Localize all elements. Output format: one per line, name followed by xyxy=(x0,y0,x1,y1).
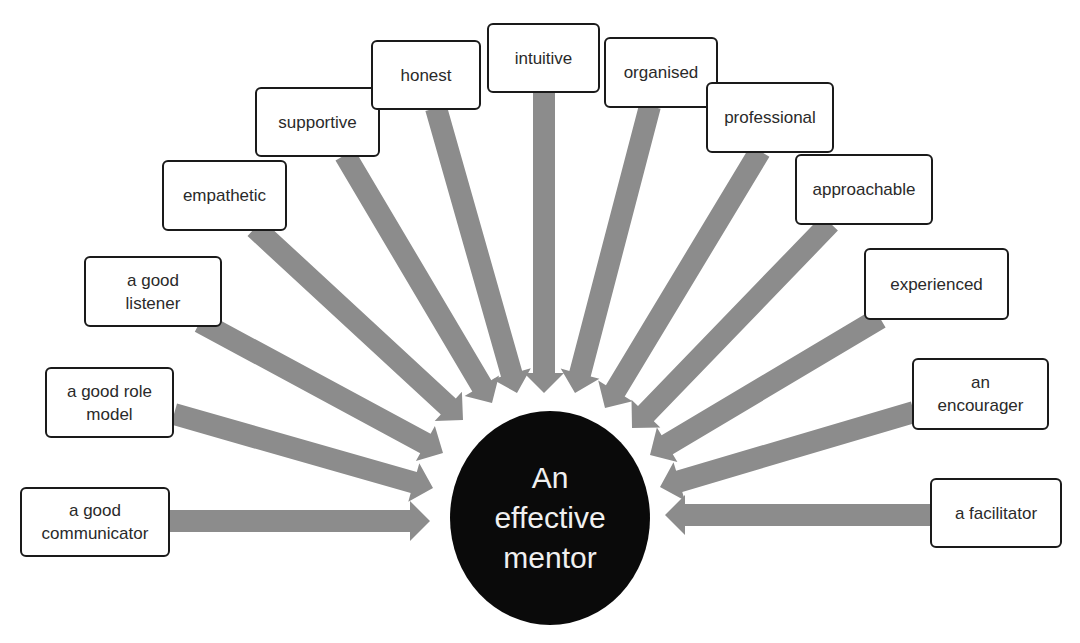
quality-label: experienced xyxy=(890,273,983,296)
quality-label: professional xyxy=(724,106,816,129)
quality-label: intuitive xyxy=(515,47,573,70)
arrow-6 xyxy=(524,93,564,393)
quality-box: intuitive xyxy=(487,23,600,93)
mentor-diagram: a good communicatora good role modela go… xyxy=(0,0,1080,643)
quality-box: a good listener xyxy=(84,256,222,327)
quality-box: experienced xyxy=(864,248,1009,320)
quality-label: a good role model xyxy=(67,380,152,426)
quality-label: approachable xyxy=(812,178,915,201)
arrow-12 xyxy=(665,495,932,535)
quality-box: a good communicator xyxy=(20,487,170,557)
quality-box: a good role model xyxy=(45,367,174,438)
quality-label: an encourager xyxy=(937,371,1023,417)
quality-label: honest xyxy=(400,64,451,87)
quality-box: a facilitator xyxy=(930,478,1062,548)
quality-box: supportive xyxy=(255,87,380,157)
quality-label: supportive xyxy=(278,111,356,134)
arrow-5 xyxy=(425,105,530,393)
quality-box: an encourager xyxy=(912,358,1049,430)
quality-label: a good listener xyxy=(126,269,181,315)
center-circle: An effective mentor xyxy=(450,411,650,625)
arrow-0 xyxy=(170,501,430,541)
quality-box: empathetic xyxy=(162,160,287,231)
quality-label: a facilitator xyxy=(955,502,1037,525)
quality-box: organised xyxy=(604,37,718,108)
quality-label: empathetic xyxy=(183,184,266,207)
quality-box: honest xyxy=(371,40,481,110)
quality-label: a good communicator xyxy=(42,499,149,545)
center-label: An effective mentor xyxy=(494,458,605,578)
quality-box: approachable xyxy=(795,154,933,225)
quality-label: organised xyxy=(624,61,699,84)
quality-box: professional xyxy=(706,82,834,153)
